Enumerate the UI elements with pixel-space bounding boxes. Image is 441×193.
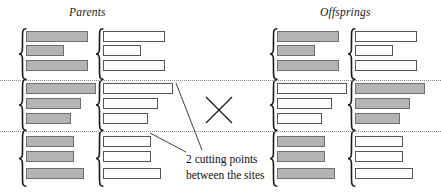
figure-canvas: Parents Offsprings 2 cutting points betw…	[0, 0, 441, 193]
caption-line-2: between the sites	[186, 168, 265, 183]
leader-to-cut-point-1	[176, 83, 202, 150]
leader-to-cut-point-2	[150, 133, 186, 152]
caption-line-1: 2 cutting points	[186, 152, 258, 167]
